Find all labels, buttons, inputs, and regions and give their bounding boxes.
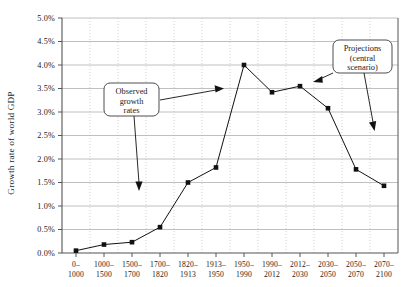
y-axis-tick-label: 1.5%	[37, 178, 55, 187]
x-axis-tick-label-line-2: 2070	[348, 270, 364, 279]
data-point-marker	[354, 167, 359, 172]
x-axis-tick-label-line-1: 2030–	[318, 260, 338, 269]
data-point-marker	[298, 84, 303, 89]
y-axis-tick-label: 0.0%	[37, 249, 55, 258]
x-axis-tick-label: 1913–1950	[206, 260, 226, 279]
data-point-marker	[102, 242, 107, 247]
y-axis-title: Growth rate of world GDP	[6, 91, 16, 194]
x-axis-tick-label: 1700–1820	[150, 260, 170, 279]
x-axis-tick-label: 1500–1700	[122, 260, 142, 279]
x-axis-tick-label: 2050–2070	[346, 260, 366, 279]
x-axis-tick-label: 1990–2012	[262, 260, 282, 279]
x-axis-tick-label-line-2: 2030	[292, 270, 308, 279]
y-axis-tick-label: 4.5%	[37, 37, 55, 46]
x-axis-tick-label-line-1: 2050–	[346, 260, 366, 269]
x-axis-tick-label-line-1: 1820–	[178, 260, 198, 269]
data-point-marker	[270, 90, 275, 95]
observed-callout-line-2: growth	[120, 97, 145, 106]
x-axis-tick-label: 2070–2100	[374, 260, 394, 279]
x-axis-tick-label-line-1: 0–	[72, 260, 80, 269]
x-axis-tick-label-line-1: 1500–	[122, 260, 142, 269]
y-axis-tick-label: 4.0%	[37, 61, 55, 70]
data-point-marker	[326, 106, 331, 111]
x-axis-tick-label-line-1: 2012–	[290, 260, 310, 269]
x-axis-tick-label-line-2: 1000	[68, 270, 84, 279]
x-axis-tick-label-line-2: 1500	[96, 270, 112, 279]
x-axis-tick-label-line-1: 1990–	[262, 260, 282, 269]
projections-callout-line-2: (central	[350, 54, 376, 63]
y-axis-tick-label: 3.5%	[37, 84, 55, 93]
y-axis-tick-label: 3.0%	[37, 108, 55, 117]
growth-rate-line-chart: 0.0%0.5%1.0%1.5%2.0%2.5%3.0%3.5%4.0%4.5%…	[0, 0, 419, 287]
y-axis-tick-label: 2.0%	[37, 155, 55, 164]
x-axis-tick-label-line-1: 1000–	[94, 260, 114, 269]
chart-container: 0.0%0.5%1.0%1.5%2.0%2.5%3.0%3.5%4.0%4.5%…	[0, 0, 419, 287]
data-point-marker	[186, 180, 191, 185]
projections-callout-line-3: scenario)	[347, 63, 378, 72]
x-axis-tick-label-line-1: 1700–	[150, 260, 170, 269]
y-axis-tick-label: 2.5%	[37, 131, 55, 140]
data-point-marker	[214, 165, 219, 170]
x-axis-tick-label: 1950–1990	[234, 260, 254, 279]
x-axis-tick-label-line-2: 2100	[376, 270, 392, 279]
y-axis-tick-label: 5.0%	[37, 14, 55, 23]
data-point-marker	[130, 240, 135, 245]
x-axis-tick-label: 2012–2030	[290, 260, 310, 279]
data-point-marker	[158, 225, 163, 230]
projections-callout-line-1: Projections	[344, 44, 382, 53]
x-axis-tick-label: 1820–1913	[178, 260, 198, 279]
x-axis-tick-label-line-2: 2012	[264, 270, 280, 279]
x-axis-tick-label-line-2: 1950	[208, 270, 224, 279]
x-axis-tick-label: 1000–1500	[94, 260, 114, 279]
x-axis-tick-label-line-2: 1990	[236, 270, 252, 279]
x-axis-tick-label-line-1: 1913–	[206, 260, 226, 269]
data-point-marker	[242, 63, 247, 68]
data-point-marker	[74, 248, 79, 253]
y-axis-tick-label: 1.0%	[37, 202, 55, 211]
data-point-marker	[382, 183, 387, 188]
x-axis-tick-label-line-2: 1820	[152, 270, 168, 279]
observed-callout-line-1: Observed	[115, 87, 148, 96]
x-axis-tick-label-line-2: 1700	[124, 270, 140, 279]
x-axis-tick-label-line-1: 2070–	[374, 260, 394, 269]
x-axis-tick-label-line-2: 2050	[320, 270, 336, 279]
x-axis-tick-label-line-1: 1950–	[234, 260, 254, 269]
x-axis-tick-label-line-2: 1913	[180, 270, 196, 279]
observed-callout-line-3: rates	[124, 106, 140, 115]
x-axis-tick-label: 2030–2050	[318, 260, 338, 279]
y-axis-tick-label: 0.5%	[37, 225, 55, 234]
